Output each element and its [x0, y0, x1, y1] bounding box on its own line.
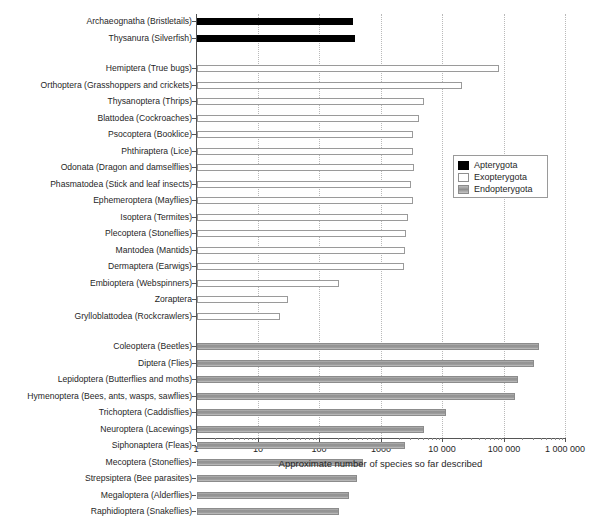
y-axis-tick — [192, 134, 196, 135]
bar — [197, 280, 339, 287]
bar-row-label: Ephemeroptera (Mayflies) — [0, 195, 192, 206]
bar — [197, 148, 413, 155]
bar-row: Dermaptera (Earwigs) — [0, 261, 592, 272]
bar — [197, 442, 405, 449]
bar — [197, 313, 280, 320]
bar-row-label: Diptera (Flies) — [0, 358, 192, 369]
y-axis-tick — [192, 118, 196, 119]
y-axis-tick — [192, 445, 196, 446]
bar-row: Siphonaptera (Fleas) — [0, 440, 592, 451]
bar-row: Orthoptera (Grasshoppers and crickets) — [0, 80, 592, 91]
bar-row-label: Odonata (Dragon and damselflies) — [0, 162, 192, 173]
bar-row-label: Hymenoptera (Bees, ants, wasps, sawflies… — [0, 391, 192, 402]
bar-row-label: Mantodea (Mantids) — [0, 245, 192, 256]
bar-row: Hemiptera (True bugs) — [0, 63, 592, 74]
bar-row: Hymenoptera (Bees, ants, wasps, sawflies… — [0, 391, 592, 402]
y-axis-tick — [192, 346, 196, 347]
y-axis-tick — [192, 396, 196, 397]
bar-row: Archaeognatha (Bristletails) — [0, 16, 592, 27]
bar-row-label: Embioptera (Webspinners) — [0, 278, 192, 289]
bar — [197, 360, 534, 367]
bar — [197, 409, 446, 416]
bar-row-label: Isoptera (Termites) — [0, 212, 192, 223]
bar — [197, 197, 413, 204]
bar — [197, 35, 355, 42]
bar-row-label: Siphonaptera (Fleas) — [0, 440, 192, 451]
y-axis-tick — [192, 101, 196, 102]
bar-row-label: Archaeognatha (Bristletails) — [0, 16, 192, 27]
legend-swatch-endopterygota — [458, 185, 469, 194]
bar-row: Blattodea (Cockroaches) — [0, 113, 592, 124]
page-header-ghost-text — [430, 0, 570, 8]
legend-swatch-apterygota — [458, 161, 469, 170]
bar — [197, 296, 288, 303]
bar — [197, 65, 499, 72]
bar-row-label: Zoraptera — [0, 294, 192, 305]
bar — [197, 492, 349, 499]
legend-label: Endopterygota — [474, 184, 533, 194]
bar — [197, 98, 424, 105]
bar-row: Mantodea (Mantids) — [0, 245, 592, 256]
bar — [197, 82, 462, 89]
bar-row-label: Dermaptera (Earwigs) — [0, 261, 192, 272]
bar-row: Psocoptera (Booklice) — [0, 129, 592, 140]
y-axis-tick — [192, 412, 196, 413]
bar-row: Diptera (Flies) — [0, 358, 592, 369]
bar-row: Coleoptera (Beetles) — [0, 341, 592, 352]
bar-row: Zoraptera — [0, 294, 592, 305]
y-axis-tick — [192, 68, 196, 69]
bar — [197, 393, 515, 400]
y-axis-tick — [192, 299, 196, 300]
bar-row-label: Plecoptera (Stoneflies) — [0, 228, 192, 239]
y-axis-tick — [192, 316, 196, 317]
bar-row: Thysanoptera (Thrips) — [0, 96, 592, 107]
bar — [197, 475, 357, 482]
bar-row: Thysanura (Silverfish) — [0, 33, 592, 44]
bar — [197, 230, 406, 237]
bar-row-label: Blattodea (Cockroaches) — [0, 113, 192, 124]
bar-row-label: Trichoptera (Caddisflies) — [0, 407, 192, 418]
y-axis-tick — [192, 151, 196, 152]
y-axis-tick — [192, 200, 196, 201]
bar — [197, 247, 405, 254]
bar-row-label: Phasmatodea (Stick and leaf insects) — [0, 179, 192, 190]
bar-row-label: Coleoptera (Beetles) — [0, 341, 192, 352]
y-axis-tick — [192, 233, 196, 234]
bar — [197, 214, 408, 221]
y-axis-tick — [192, 379, 196, 380]
y-axis-tick — [192, 478, 196, 479]
y-axis-tick — [192, 217, 196, 218]
bar-row: Neuroptera (Lacewings) — [0, 424, 592, 435]
bar-row: Lepidoptera (Butterflies and moths) — [0, 374, 592, 385]
bar-row: Strepsiptera (Bee parasites) — [0, 473, 592, 484]
y-axis-tick — [192, 250, 196, 251]
legend: Apterygota Exopterygota Endopterygota — [453, 155, 548, 198]
bar — [197, 343, 539, 350]
x-axis-title: Approximate number of species so far des… — [196, 458, 565, 469]
legend-label: Apterygota — [474, 160, 518, 170]
y-axis-tick — [192, 38, 196, 39]
bar — [197, 376, 518, 383]
bar-row-label: Thysanura (Silverfish) — [0, 33, 192, 44]
bar-row: Embioptera (Webspinners) — [0, 278, 592, 289]
y-axis-tick — [192, 184, 196, 185]
bar-row-label: Orthoptera (Grasshoppers and crickets) — [0, 80, 192, 91]
y-axis-tick — [192, 511, 196, 512]
bar-row: Megaloptera (Alderflies) — [0, 490, 592, 501]
bar-row-label: Phthiraptera (Lice) — [0, 146, 192, 157]
y-axis-tick — [192, 167, 196, 168]
y-axis-tick — [192, 85, 196, 86]
bar — [197, 115, 419, 122]
bar-row-label: Grylloblattodea (Rockcrawlers) — [0, 311, 192, 322]
bar-row-label: Thysanoptera (Thrips) — [0, 96, 192, 107]
bar — [197, 263, 404, 270]
legend-swatch-exopterygota — [458, 173, 469, 182]
legend-label: Exopterygota — [474, 172, 527, 182]
bar-row-label: Neuroptera (Lacewings) — [0, 424, 192, 435]
bar-row: Grylloblattodea (Rockcrawlers) — [0, 311, 592, 322]
bar-row: Trichoptera (Caddisflies) — [0, 407, 592, 418]
y-axis-tick — [192, 429, 196, 430]
bar — [197, 164, 414, 171]
bar — [197, 426, 424, 433]
